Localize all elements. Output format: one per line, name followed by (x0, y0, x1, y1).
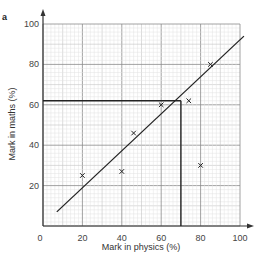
y-tick-label: 80 (29, 59, 39, 69)
x-tick-label: 80 (196, 233, 206, 243)
x-tick-label: 0 (37, 233, 42, 243)
x-tick-label: 100 (232, 233, 247, 243)
y-tick-label: 20 (29, 181, 39, 191)
grid (43, 24, 240, 226)
x-tick-label: 20 (77, 233, 87, 243)
y-tick-label: 100 (24, 19, 39, 29)
y-axis-label: Mark in maths (%) (7, 87, 17, 160)
axes (41, 9, 255, 229)
y-tick-label: 40 (29, 140, 39, 150)
reading-lines (43, 101, 181, 226)
scatter-chart: 02040608010020406080100 Mark in physics … (0, 0, 264, 263)
y-tick-label: 60 (29, 100, 39, 110)
x-axis-label: Mark in physics (%) (102, 242, 181, 252)
